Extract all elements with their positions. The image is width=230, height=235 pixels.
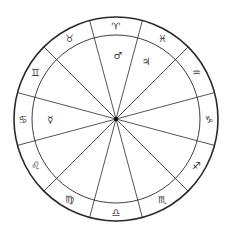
center-hub: [114, 117, 118, 121]
cancer-sign-icon: ♋: [19, 114, 28, 125]
jupiter-planet-icon: ♃: [142, 56, 151, 67]
aquarius-sign-icon: ♒: [192, 67, 201, 78]
house-spoke: [116, 119, 188, 191]
mercury-planet-icon: ☿: [47, 114, 53, 125]
gemini-sign-icon: ♊: [31, 67, 40, 78]
house-spoke: [116, 47, 188, 119]
planet-labels: ♂♃☿: [47, 50, 151, 125]
pisces-sign-icon: ♓: [158, 33, 167, 44]
sagittarius-sign-icon: ♐: [192, 160, 201, 171]
zodiac-wheel: ♈♓♒♑♐♏♎♍♌♋♊♉ ♂♃☿: [0, 0, 230, 235]
libra-sign-icon: ♎: [112, 207, 121, 218]
mars-planet-icon: ♂: [114, 50, 123, 61]
leo-sign-icon: ♌: [31, 160, 40, 171]
taurus-sign-icon: ♉: [65, 33, 74, 44]
house-spoke: [44, 119, 116, 191]
virgo-sign-icon: ♍: [65, 194, 74, 205]
house-spoke: [44, 47, 116, 119]
scorpio-sign-icon: ♏: [158, 194, 167, 205]
aries-sign-icon: ♈: [112, 21, 121, 32]
capricorn-sign-icon: ♑: [205, 114, 214, 125]
